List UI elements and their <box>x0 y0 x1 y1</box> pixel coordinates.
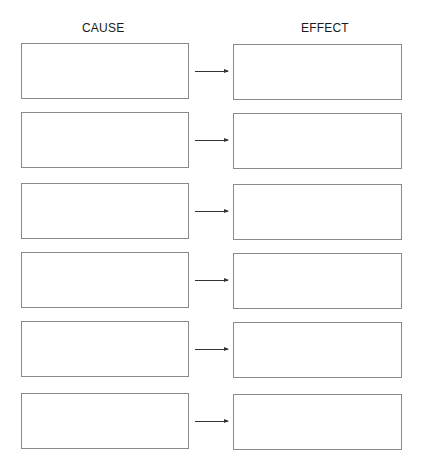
effect-box-5[interactable] <box>233 322 402 378</box>
arrow-right-icon <box>195 421 228 422</box>
arrow-right-icon <box>195 280 228 281</box>
cause-box-1[interactable] <box>21 43 189 99</box>
effect-box-1[interactable] <box>233 44 402 100</box>
cause-box-6[interactable] <box>21 393 189 449</box>
effect-box-6[interactable] <box>233 394 402 450</box>
cause-box-2[interactable] <box>21 112 189 168</box>
effect-header: EFFECT <box>301 21 349 35</box>
effect-box-2[interactable] <box>233 113 402 169</box>
arrow-right-icon <box>195 349 228 350</box>
cause-box-5[interactable] <box>21 321 189 377</box>
arrow-right-icon <box>195 140 228 141</box>
cause-box-3[interactable] <box>21 183 189 239</box>
cause-box-4[interactable] <box>21 252 189 308</box>
arrow-right-icon <box>195 211 228 212</box>
arrow-right-icon <box>195 71 228 72</box>
effect-box-3[interactable] <box>233 184 402 240</box>
effect-box-4[interactable] <box>233 253 402 309</box>
cause-header: CAUSE <box>82 21 124 35</box>
